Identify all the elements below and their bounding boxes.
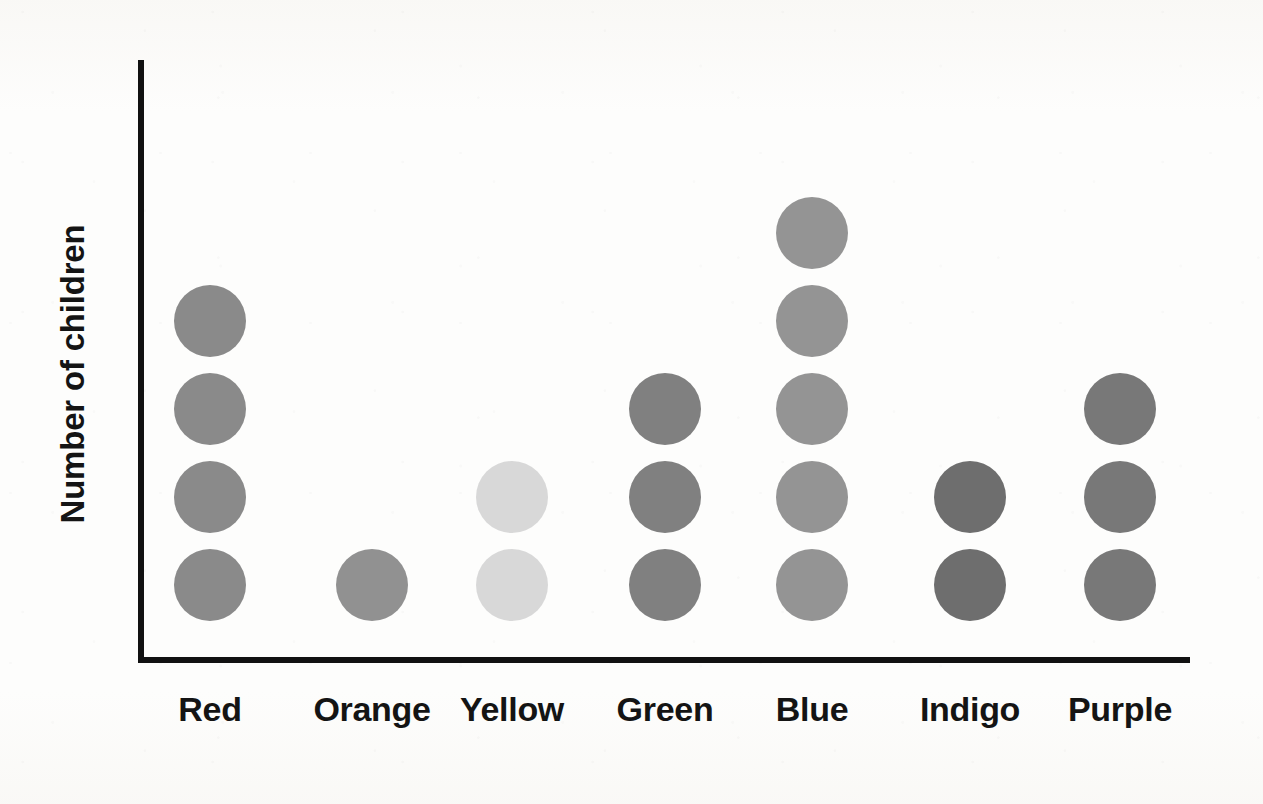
dot <box>629 549 701 621</box>
dot <box>776 373 848 445</box>
dot <box>174 549 246 621</box>
dot <box>1084 373 1156 445</box>
x-axis-label-orange: Orange <box>313 690 430 729</box>
dot <box>776 197 848 269</box>
dot <box>776 549 848 621</box>
chart-page: Number of children RedOrangeYellowGreenB… <box>0 0 1263 804</box>
x-axis-label-indigo: Indigo <box>920 690 1020 729</box>
dot <box>174 373 246 445</box>
x-axis-label-green: Green <box>617 690 714 729</box>
dot <box>1084 549 1156 621</box>
x-axis-label-purple: Purple <box>1068 690 1172 729</box>
x-axis-label-yellow: Yellow <box>460 690 564 729</box>
dot <box>776 285 848 357</box>
dot <box>934 461 1006 533</box>
dot <box>1084 461 1156 533</box>
dot <box>629 373 701 445</box>
x-axis-label-red: Red <box>178 690 241 729</box>
dot <box>336 549 408 621</box>
dot <box>476 549 548 621</box>
dot <box>776 461 848 533</box>
dot <box>174 285 246 357</box>
x-axis-label-blue: Blue <box>776 690 848 729</box>
dot <box>476 461 548 533</box>
dot <box>629 461 701 533</box>
dot <box>934 549 1006 621</box>
plot-area: RedOrangeYellowGreenBlueIndigoPurple <box>0 0 1263 804</box>
dot <box>174 461 246 533</box>
